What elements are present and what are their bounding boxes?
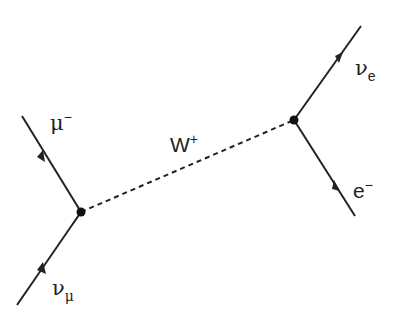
w-boson-charge: + <box>190 131 198 147</box>
muon-label: μ− <box>50 112 72 134</box>
muon-neutrino-flavor: μ <box>65 288 74 304</box>
muon-neutrino-label: νμ <box>52 278 74 301</box>
muon-charge: − <box>64 109 72 125</box>
muon-symbol: μ <box>50 111 64 135</box>
electron-label: e− <box>353 180 373 201</box>
electron-charge: − <box>365 177 373 193</box>
right-vertex <box>290 116 299 125</box>
electron-line <box>294 120 355 216</box>
electron-neutrino-label: νe <box>355 58 376 81</box>
muon-neutrino-symbol: ν <box>52 276 65 300</box>
electron-neutrino-line <box>294 26 361 120</box>
electron-neutrino-flavor: e <box>368 68 376 84</box>
left-vertex <box>77 208 86 217</box>
w-boson-symbol: W <box>170 133 190 156</box>
w-boson-label: W+ <box>170 134 198 155</box>
electron-symbol: e <box>353 179 365 202</box>
electron-neutrino-symbol: ν <box>355 56 368 80</box>
